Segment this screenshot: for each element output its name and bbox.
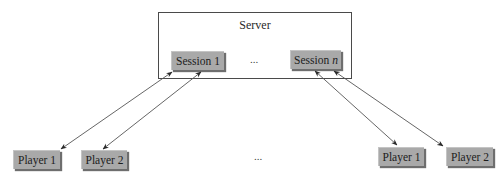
arrow-sessionn-player1 <box>315 71 397 145</box>
client-server-diagram: Server Session 1 ... Session n Player 1 … <box>0 0 503 178</box>
arrow-session1-player1 <box>61 72 172 149</box>
arrow-session1-player2 <box>103 72 201 149</box>
connection-arrows <box>0 0 503 178</box>
arrow-sessionn-player2 <box>334 71 443 146</box>
